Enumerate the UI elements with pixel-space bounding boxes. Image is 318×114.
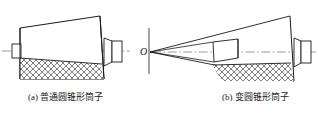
right-collar-b (301, 41, 311, 63)
caption-panel-b: (b) 变圆锥形筒子 (222, 90, 289, 103)
right-flange-b (294, 38, 301, 67)
inner-ray-lower-b (150, 52, 214, 62)
right-collar-a (112, 41, 122, 62)
apex-label-o: O (140, 46, 147, 57)
caption-panel-a: (a) 普通圆锥形筒子 (28, 90, 103, 103)
inner-tube-b (213, 39, 238, 62)
right-flange-a (104, 38, 112, 66)
panel-a-ordinary-conical-bobbin (2, 16, 130, 85)
figure-root: O (a) 普通圆锥形筒子 (b) 变圆锥形筒子 (0, 0, 318, 114)
